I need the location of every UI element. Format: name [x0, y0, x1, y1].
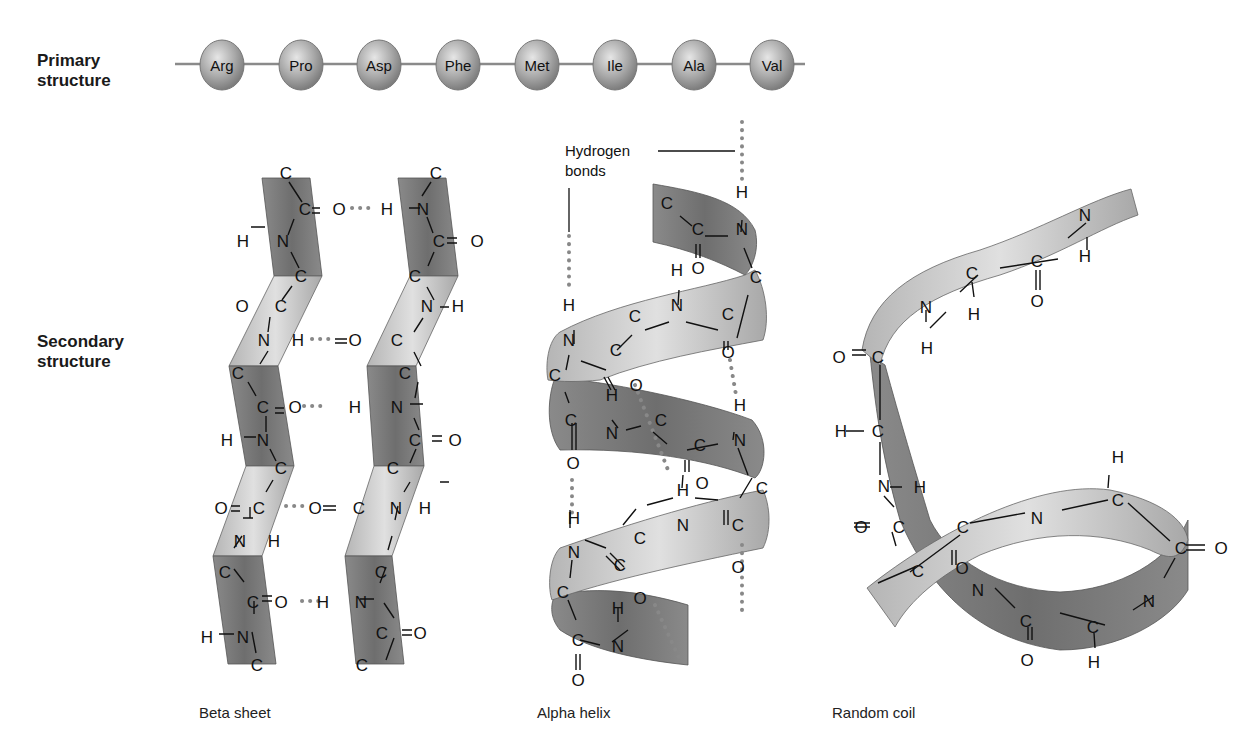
- atom-c: C: [299, 200, 311, 219]
- atom-c: C: [694, 436, 706, 455]
- atom-c: C: [750, 268, 762, 287]
- residue-bead-val: Val: [750, 40, 794, 90]
- atom-h: H: [317, 593, 329, 612]
- atom-h: H: [734, 396, 746, 415]
- atom-c: C: [232, 364, 244, 383]
- atom-c: C: [966, 264, 978, 283]
- atom-c: C: [1112, 491, 1124, 510]
- atom-n: N: [1031, 509, 1043, 528]
- atom-h: H: [381, 200, 393, 219]
- atom-h: H: [1079, 247, 1091, 266]
- atom-n: N: [734, 431, 746, 450]
- primary-structure-chain: Arg Pro Asp Phe Met Ile Ala Val: [175, 40, 805, 90]
- alpha-helix: Hydrogen bonds C H C N O H C H N C C N C: [547, 122, 769, 690]
- atom-c: C: [376, 624, 388, 643]
- atom-c: C: [251, 656, 263, 675]
- atom-c: C: [732, 516, 744, 535]
- atom-c: C: [572, 631, 584, 650]
- atom-c: C: [275, 459, 287, 478]
- atom-c: C: [1031, 252, 1043, 271]
- atom-c: C: [661, 194, 673, 213]
- atom-o: O: [731, 558, 744, 577]
- protein-structure-diagram: Arg Pro Asp Phe Met Ile Ala Val C C: [0, 0, 1258, 747]
- atom-c: C: [387, 459, 399, 478]
- atom-o: O: [566, 454, 579, 473]
- residue-bead-phe: Phe: [436, 40, 480, 90]
- atom-n: N: [736, 220, 748, 239]
- atom-h: H: [921, 339, 933, 358]
- beta-strand-left-segment: [229, 276, 322, 366]
- residue-bead-pro: Pro: [279, 40, 323, 90]
- atom-h: H: [563, 296, 575, 315]
- atom-c: C: [610, 341, 622, 360]
- atom-c: C: [356, 656, 368, 675]
- atom-o: O: [854, 518, 867, 537]
- residue-label: Met: [524, 57, 550, 74]
- atom-n: N: [258, 331, 270, 350]
- coil-ribbon-top: [862, 189, 1138, 365]
- atom-o: O: [721, 343, 734, 362]
- atom-c: C: [391, 331, 403, 350]
- atom-h: H: [452, 297, 464, 316]
- atom-c: C: [430, 164, 442, 183]
- atom-c: C: [353, 499, 365, 518]
- atom-c: C: [629, 307, 641, 326]
- atom-n: N: [568, 543, 580, 562]
- atom-o: O: [274, 593, 287, 612]
- atom-n: N: [277, 232, 289, 251]
- residue-bead-ile: Ile: [593, 40, 637, 90]
- atom-c: C: [692, 220, 704, 239]
- atom-h: H: [419, 499, 431, 518]
- atom-o: O: [308, 499, 321, 518]
- atom-h: H: [292, 331, 304, 350]
- atom-h: H: [349, 398, 361, 417]
- atom-c: C: [872, 348, 884, 367]
- atom-h: H: [677, 481, 689, 500]
- helix-ribbon-front: [550, 490, 769, 600]
- atom-h: H: [268, 532, 280, 551]
- atom-n: N: [257, 431, 269, 450]
- atom-c: C: [872, 422, 884, 441]
- atom-o: O: [955, 559, 968, 578]
- atom-o: O: [695, 474, 708, 493]
- atom-c: C: [893, 518, 905, 537]
- atom-c: C: [1087, 618, 1099, 637]
- atom-h: H: [237, 232, 249, 251]
- atom-n: N: [417, 200, 429, 219]
- atom-c: C: [565, 411, 577, 430]
- atom-h: H: [1112, 448, 1124, 467]
- atom-c: C: [957, 518, 969, 537]
- atom-o: O: [348, 331, 361, 350]
- atom-o: O: [235, 297, 248, 316]
- atom-c: C: [557, 583, 569, 602]
- atom-o: O: [214, 499, 227, 518]
- atom-o: O: [633, 589, 646, 608]
- atom-h: H: [835, 422, 847, 441]
- residue-bead-asp: Asp: [357, 40, 401, 90]
- residue-bead-ala: Ala: [672, 40, 716, 90]
- atom-n: N: [1079, 206, 1091, 225]
- atom-o: O: [1020, 651, 1033, 670]
- caption-random-coil: Random coil: [832, 704, 915, 721]
- atom-c: C: [722, 305, 734, 324]
- atom-n: N: [677, 516, 689, 535]
- atom-c: C: [912, 562, 924, 581]
- atom-n: N: [390, 499, 402, 518]
- atom-c: C: [295, 267, 307, 286]
- atom-o: O: [288, 398, 301, 417]
- atom-c: C: [409, 431, 421, 450]
- atom-h: H: [201, 628, 213, 647]
- residue-label: Arg: [210, 57, 233, 74]
- hydrogen-bonds-label-line2: bonds: [565, 162, 606, 179]
- atom-c: C: [275, 297, 287, 316]
- beta-strand-right-segment: [398, 178, 458, 276]
- atom-h: H: [612, 599, 624, 618]
- atom-c: C: [247, 593, 259, 612]
- atom-h: H: [736, 183, 748, 202]
- atom-o: O: [832, 348, 845, 367]
- hydrogen-bonds-label-line1: Hydrogen: [565, 142, 630, 159]
- atom-h: H: [968, 305, 980, 324]
- atom-n: N: [391, 398, 403, 417]
- atom-c: C: [257, 398, 269, 417]
- atom-h: H: [914, 478, 926, 497]
